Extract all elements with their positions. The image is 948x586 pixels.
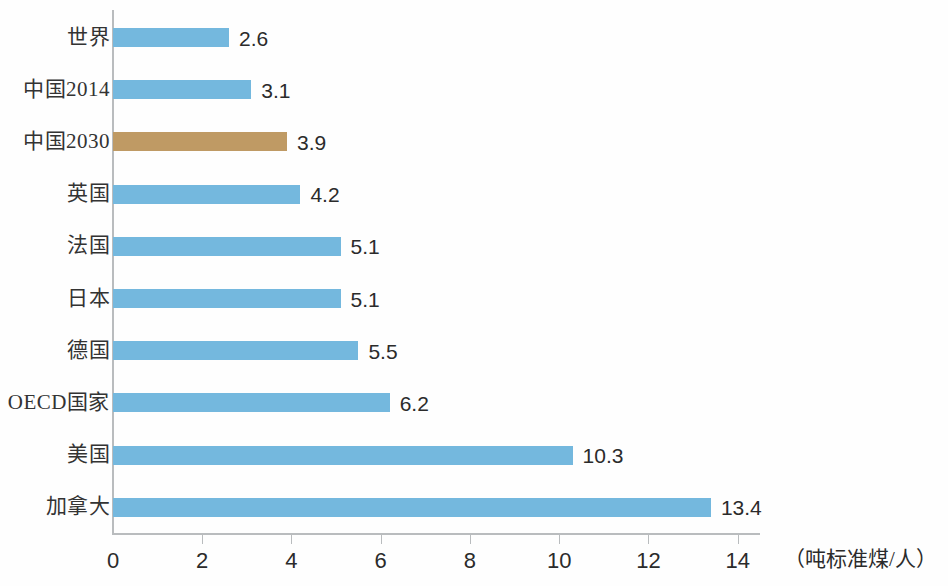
bar-chart: 世界2.6中国20143.1中国20303.9英国4.2法国5.1日本5.1德国…	[0, 0, 948, 586]
category-label: 世界	[67, 27, 110, 48]
x-tick-label: 10	[547, 550, 571, 572]
category-label: 英国	[67, 183, 110, 204]
bar-value-label: 3.1	[261, 80, 290, 101]
bar-value-label: 6.2	[400, 393, 429, 414]
bar-value-label: 3.9	[297, 132, 326, 153]
bar-value-label: 2.6	[239, 28, 268, 49]
category-label: 法国	[67, 235, 110, 256]
bar	[113, 28, 229, 47]
category-label: 德国	[67, 340, 110, 361]
x-tick-mark	[738, 535, 739, 544]
bar	[113, 341, 358, 360]
x-tick-label: 12	[636, 550, 660, 572]
category-label: 中国2030	[23, 131, 110, 152]
bar-value-label: 5.1	[351, 236, 380, 257]
x-axis-line	[112, 533, 760, 535]
x-tick-mark	[202, 535, 203, 544]
bar-value-label: 10.3	[583, 445, 624, 466]
x-tick-label: 6	[375, 550, 387, 572]
x-tick-label: 0	[107, 550, 119, 572]
bar-value-label: 5.1	[351, 289, 380, 310]
category-label: OECD国家	[8, 392, 110, 413]
bar-value-label: 5.5	[368, 341, 397, 362]
x-tick-label: 2	[196, 550, 208, 572]
bar	[113, 446, 573, 465]
bar	[113, 289, 341, 308]
category-label: 中国2014	[23, 79, 110, 100]
bar	[113, 80, 251, 99]
x-tick-mark	[559, 535, 560, 544]
x-tick-label: 8	[464, 550, 476, 572]
category-label: 加拿大	[46, 496, 111, 517]
x-tick-label: 4	[285, 550, 297, 572]
bar	[113, 185, 300, 204]
bar	[113, 393, 390, 412]
bar-value-label: 13.4	[721, 497, 762, 518]
x-tick-mark	[291, 535, 292, 544]
bar	[113, 498, 711, 517]
bar	[113, 132, 287, 151]
x-tick-label: 14	[725, 550, 749, 572]
bar-value-label: 4.2	[310, 184, 339, 205]
category-label: 日本	[67, 288, 110, 309]
category-label: 美国	[67, 444, 110, 465]
x-tick-mark	[381, 535, 382, 544]
x-axis-unit-label: （吨标准煤/人）	[784, 549, 937, 570]
x-tick-mark	[470, 535, 471, 544]
bar	[113, 237, 341, 256]
x-tick-mark	[648, 535, 649, 544]
